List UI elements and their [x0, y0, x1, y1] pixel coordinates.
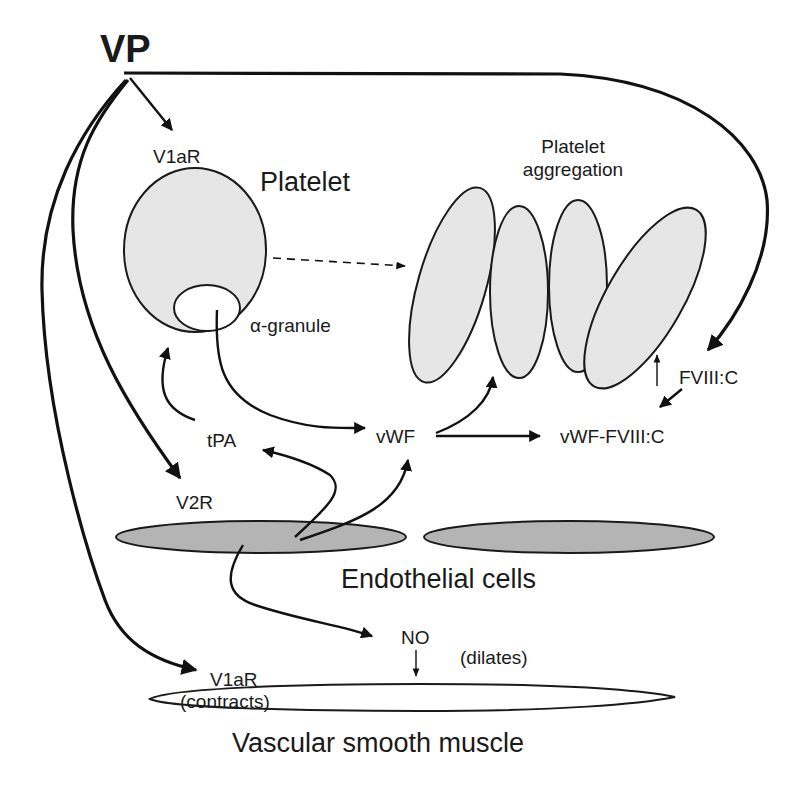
vwf-fviii-c-label: vWF-FVIII:C	[560, 426, 664, 447]
no-label: NO	[401, 627, 430, 648]
vasopressin-pathway-diagram: VP V1aR Platelet α-granule Platelet aggr…	[0, 0, 800, 794]
platelet-aggregation-label-line2: aggregation	[523, 159, 623, 180]
vp-label: VP	[100, 28, 151, 70]
platelet-aggregation-label-line1: Platelet	[541, 136, 605, 157]
dilates-label: (dilates)	[460, 647, 528, 668]
platelet-label: Platelet	[260, 167, 351, 197]
tpa-label: tPA	[207, 430, 237, 451]
alpha-granule-shape	[174, 285, 240, 331]
fviii-c-label: FVIII:C	[679, 367, 738, 388]
vwf-label: vWF	[376, 426, 415, 447]
endothelial-cells-shapes	[116, 521, 714, 553]
v2r-label: V2R	[176, 492, 213, 513]
v1ar-platelet-label: V1aR	[153, 146, 201, 167]
alpha-granule-label: α-granule	[250, 315, 331, 336]
v1ar-muscle-label: V1aR	[210, 669, 258, 690]
endothelial-cells-label: Endothelial cells	[341, 564, 536, 594]
vascular-smooth-muscle-label: Vascular smooth muscle	[232, 728, 524, 758]
contracts-label: (contracts)	[180, 691, 270, 712]
platelet-cell	[124, 168, 266, 332]
